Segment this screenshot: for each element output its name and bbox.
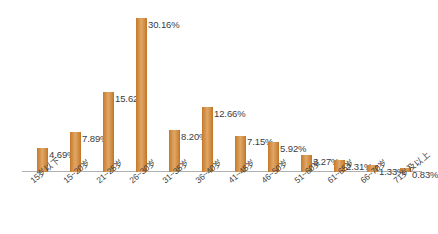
bar-group (158, 1, 191, 172)
bar-group (290, 1, 323, 172)
bar-group (389, 1, 422, 172)
bar[interactable] (136, 18, 147, 172)
bar-group (323, 1, 356, 172)
bar-group (356, 1, 389, 172)
bar-group (26, 1, 59, 172)
bar-group (92, 1, 125, 172)
bar-group (191, 1, 224, 172)
x-axis-label-row: 15岁以下15~20岁21~25岁26~30岁31~35岁36~40岁41~45… (0, 172, 433, 234)
plot-area: 4.69%7.89%15.62%30.16%8.20%12.66%7.15%5.… (0, 0, 433, 172)
bar-group (59, 1, 92, 172)
